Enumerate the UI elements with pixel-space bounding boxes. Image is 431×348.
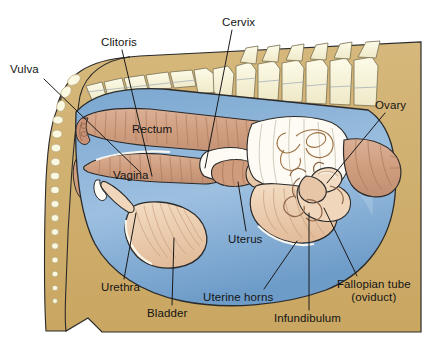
label-uterine-horns: Uterine horns <box>203 291 273 304</box>
label-ovary: Ovary <box>375 99 406 112</box>
anatomical-figure-page: Vulva Clitoris Cervix Ovary Rectum Vagin… <box>0 0 431 348</box>
label-bladder: Bladder <box>147 307 187 320</box>
label-fallopian-tube-line1: Fallopian tube <box>337 278 411 291</box>
label-vagina: Vagina <box>113 169 149 182</box>
label-urethra: Urethra <box>101 281 140 294</box>
label-fallopian-tube-line2: (oviduct) <box>337 291 411 304</box>
label-clitoris: Clitoris <box>101 36 137 49</box>
label-infundibulum: Infundibulum <box>274 312 341 325</box>
label-rectum: Rectum <box>132 123 172 136</box>
label-vulva: Vulva <box>10 63 39 76</box>
label-cervix: Cervix <box>222 16 255 29</box>
label-fallopian-tube: Fallopian tube (oviduct) <box>337 278 411 304</box>
label-uterus: Uterus <box>228 233 262 246</box>
